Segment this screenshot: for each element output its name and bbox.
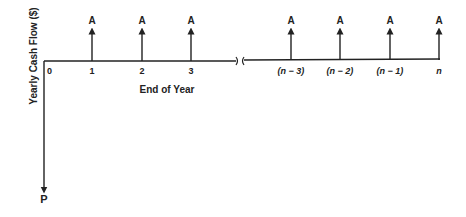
payment-label: A <box>287 15 294 26</box>
period-label: (n − 1) <box>377 66 404 76</box>
period-label: n <box>436 66 442 76</box>
payment-label: A <box>386 15 393 26</box>
y-axis-label: Yearly Cash Flow ($) <box>28 7 39 104</box>
payment-label: A <box>435 15 442 26</box>
cash-flow-diagram: Yearly Cash Flow ($) P 0 End of Year A1A… <box>0 0 466 217</box>
payment-label: A <box>88 15 95 26</box>
present-value-label: P <box>40 193 47 205</box>
payment-arrows: A1A2A3A(n − 3)A(n − 2)A(n − 1)An <box>88 15 442 76</box>
payment-label: A <box>187 15 194 26</box>
period-label: 2 <box>139 66 144 76</box>
payment-label: A <box>138 15 145 26</box>
timeline-right <box>244 59 440 60</box>
origin-label: 0 <box>47 66 52 76</box>
axis-break-icon <box>236 57 244 65</box>
payment-label: A <box>336 15 343 26</box>
period-label: (n − 3) <box>278 66 305 76</box>
x-axis-label: End of Year <box>140 84 195 95</box>
period-label: 1 <box>89 66 94 76</box>
period-label: 3 <box>188 66 193 76</box>
period-label: (n − 2) <box>327 66 354 76</box>
